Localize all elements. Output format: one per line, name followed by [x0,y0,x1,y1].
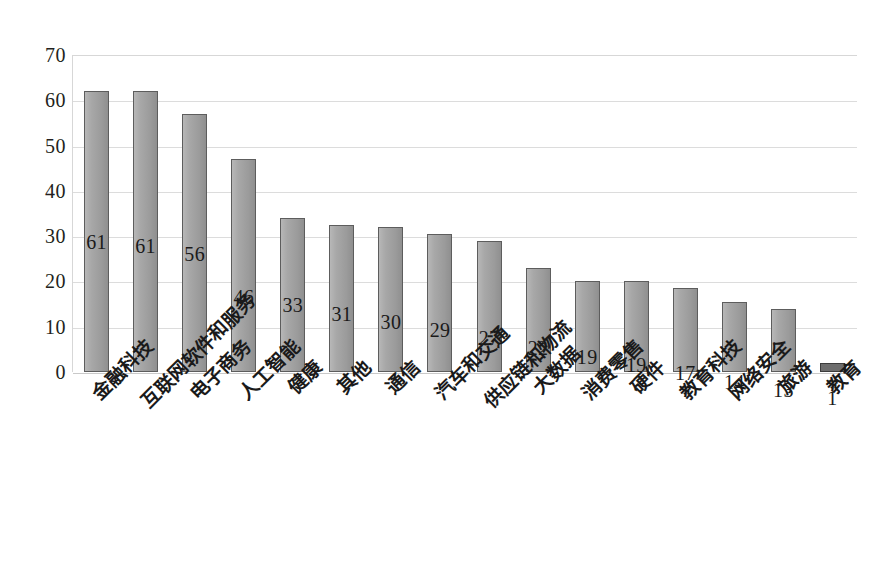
bar-chart: 706050403020100 616156463331302927221919… [0,0,881,561]
y-tick-label-10: 10 [12,317,66,337]
y-tick-label-0: 0 [12,362,66,382]
data-label: 30 [367,312,415,332]
y-tick-label-40: 40 [12,181,66,201]
data-label: 56 [171,244,219,264]
y-tick-label-50: 50 [12,136,66,156]
bar[interactable] [133,91,158,372]
data-label: 61 [73,232,121,252]
y-tick-label-20: 20 [12,271,66,291]
bar[interactable] [427,234,452,372]
y-tick-label-70: 70 [12,45,66,65]
data-label: 29 [416,320,464,340]
data-label: 31 [318,304,366,324]
y-tick-label-60: 60 [12,90,66,110]
bar[interactable] [378,227,403,372]
category-labels: 金融科技互联网软件和服务电子商务人工智能健康其他通信汽车和交通供应链和物流大数据… [72,372,857,561]
bar[interactable] [329,225,354,372]
bars-layer: 6161564633313029272219191714131 [72,55,857,372]
data-label: 33 [269,295,317,315]
y-axis: 706050403020100 [0,0,66,561]
bar[interactable] [673,288,698,372]
data-label: 61 [122,236,170,256]
y-tick-label-30: 30 [12,226,66,246]
